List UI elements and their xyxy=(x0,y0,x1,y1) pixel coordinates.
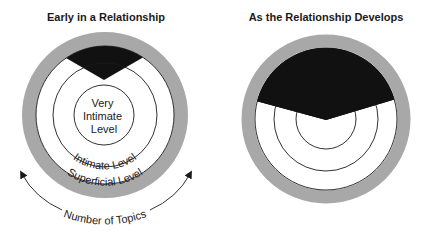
panel-early: Early in a Relationship Very Intimate Le… xyxy=(22,11,190,226)
social-penetration-diagram: Early in a Relationship Very Intimate Le… xyxy=(0,0,428,232)
panel-develops: As the Relationship Develops xyxy=(240,11,412,197)
panel-title: As the Relationship Develops xyxy=(249,11,404,23)
number-of-topics-label: Number of Topics xyxy=(62,207,148,226)
panel-title: Early in a Relationship xyxy=(47,11,165,23)
